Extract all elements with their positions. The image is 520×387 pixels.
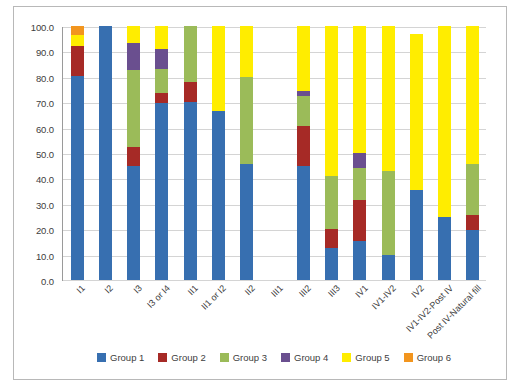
- bar-segment: [127, 147, 140, 166]
- bar-segment: [71, 76, 84, 280]
- bar-column: [212, 27, 225, 280]
- y-axis-tick-label: 80.0: [36, 72, 54, 83]
- legend-swatch-icon: [404, 353, 413, 362]
- bar-segment: [127, 43, 140, 71]
- x-axis-tick-label-text: III2: [297, 283, 313, 299]
- bar-segment: [325, 26, 338, 176]
- bar-segment: [155, 103, 168, 280]
- bar-column: [155, 27, 168, 280]
- legend-label: Group 6: [417, 352, 451, 363]
- x-axis-tick-label-text: IV1-IV2: [370, 283, 398, 311]
- x-axis-labels: I1I2I3I3 or I4II1II1 or I2II2III1III2III…: [62, 283, 486, 353]
- y-axis-tick-label: 70.0: [36, 98, 54, 109]
- y-axis-tick-label: 30.0: [36, 199, 54, 210]
- bar-segment: [184, 82, 197, 102]
- x-axis-tick-label-text: IV2: [410, 283, 427, 300]
- legend-item[interactable]: Group 6: [404, 352, 451, 363]
- bar-segment: [240, 26, 253, 77]
- bar-segment: [353, 241, 366, 280]
- bar-column: [297, 27, 310, 280]
- bar-segment: [466, 26, 479, 164]
- x-axis-tick-label-text: I2: [103, 283, 115, 295]
- x-axis-tick-label-text: II2: [243, 283, 257, 297]
- bar-segment: [297, 96, 310, 126]
- bar-segment: [353, 168, 366, 200]
- bar-column: [269, 27, 282, 280]
- bar-segment: [155, 49, 168, 69]
- bar-segment: [353, 200, 366, 241]
- bar-segment: [240, 77, 253, 165]
- y-axis-tick-label: 0.0: [41, 276, 54, 287]
- y-axis-tick-label: 100.0: [31, 22, 54, 33]
- bar-segment: [438, 26, 451, 217]
- bar-segment: [71, 46, 84, 75]
- x-axis-tick-label-text: IV1: [353, 283, 370, 300]
- x-axis-tick-label-text: Post IV-Natural fill: [425, 283, 483, 341]
- x-axis-tick-label-text: II1: [186, 283, 200, 297]
- bar-segment: [466, 215, 479, 230]
- legend-item[interactable]: Group 2: [158, 352, 205, 363]
- bar-segment: [127, 26, 140, 43]
- bar-column: [438, 27, 451, 280]
- bar-column: [382, 27, 395, 280]
- y-axis-tick-label: 20.0: [36, 225, 54, 236]
- bar-segment: [184, 102, 197, 280]
- x-axis-tick-label-text: II1 or I2: [200, 283, 229, 312]
- legend-item[interactable]: Group 3: [220, 352, 267, 363]
- y-axis-tick-label: 50.0: [36, 149, 54, 160]
- bar-segment: [212, 111, 225, 280]
- y-axis-tick-label: 10.0: [36, 250, 54, 261]
- legend-label: Group 1: [110, 352, 144, 363]
- bar-segment: [127, 166, 140, 280]
- bar-segment: [297, 26, 310, 91]
- legend-label: Group 5: [355, 352, 389, 363]
- legend-swatch-icon: [97, 353, 106, 362]
- bar-segment: [410, 34, 423, 190]
- bar-segment: [382, 26, 395, 171]
- bar-column: [466, 27, 479, 280]
- chart-container: 0.010.020.030.040.050.060.070.080.090.01…: [13, 6, 507, 380]
- bar-segment: [438, 217, 451, 281]
- bar-column: [71, 27, 84, 280]
- bar-column: [99, 27, 112, 280]
- legend-label: Group 2: [171, 352, 205, 363]
- bar-segment: [297, 166, 310, 280]
- bar-segment: [99, 26, 112, 280]
- legend-item[interactable]: Group 4: [281, 352, 328, 363]
- bar-segment: [382, 171, 395, 255]
- legend-label: Group 3: [233, 352, 267, 363]
- bar-column: [240, 27, 253, 280]
- bar-segment: [155, 69, 168, 93]
- bar-segment: [71, 35, 84, 46]
- bar-segment: [353, 26, 366, 153]
- legend-swatch-icon: [342, 353, 351, 362]
- legend-swatch-icon: [158, 353, 167, 362]
- legend-label: Group 4: [294, 352, 328, 363]
- legend-swatch-icon: [281, 353, 290, 362]
- bar-column: [353, 27, 366, 280]
- bar-series-group: [63, 27, 486, 280]
- y-axis-labels: 0.010.020.030.040.050.060.070.080.090.01…: [14, 27, 58, 281]
- x-axis-tick-label-text: I1: [75, 283, 87, 295]
- y-axis-tick-label: 40.0: [36, 174, 54, 185]
- legend-swatch-icon: [220, 353, 229, 362]
- legend-item[interactable]: Group 1: [97, 352, 144, 363]
- bar-segment: [71, 26, 84, 35]
- bar-segment: [325, 229, 338, 248]
- legend-item[interactable]: Group 5: [342, 352, 389, 363]
- bar-segment: [155, 26, 168, 49]
- x-axis-tick-label-text: I3: [131, 283, 143, 295]
- x-axis-tick-label-text: III1: [269, 283, 285, 299]
- y-axis-tick-label: 90.0: [36, 47, 54, 58]
- plot-area: [62, 27, 486, 281]
- x-axis-tick-label-text: I3 or I4: [145, 283, 172, 310]
- bar-column: [127, 27, 140, 280]
- bar-column: [184, 27, 197, 280]
- bar-segment: [325, 176, 338, 229]
- bar-segment: [466, 164, 479, 215]
- y-axis-tick-label: 60.0: [36, 123, 54, 134]
- bar-column: [410, 27, 423, 280]
- bar-segment: [155, 93, 168, 103]
- bar-segment: [325, 248, 338, 280]
- bar-segment: [184, 26, 197, 82]
